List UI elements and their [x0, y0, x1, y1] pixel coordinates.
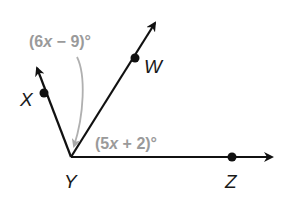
label-w: W — [144, 56, 164, 77]
label-y: Y — [64, 171, 78, 192]
angle-xyw-expression: (6x − 9)° — [29, 33, 91, 50]
point-x — [40, 89, 49, 98]
angle-wyz-expression: (5x + 2)° — [95, 135, 157, 152]
ray-yx — [37, 68, 71, 157]
point-z — [228, 153, 237, 162]
label-z: Z — [224, 171, 238, 192]
label-x: X — [19, 89, 34, 110]
angle-diagram: X W Y Z (6x − 9)° (5x + 2)° — [0, 0, 289, 198]
angle-pointer-arrow — [74, 57, 83, 146]
point-w — [131, 54, 140, 63]
